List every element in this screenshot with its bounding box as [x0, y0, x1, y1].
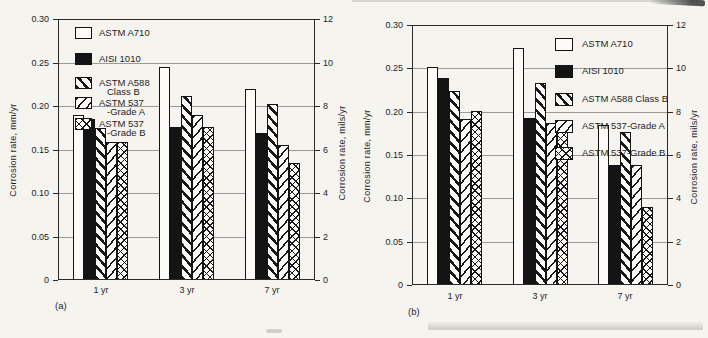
- legend-swatch-hatch-nw: [555, 93, 573, 106]
- y-axis-title-right-b: Corrosion rate, mils/yr: [689, 110, 699, 205]
- left-tick-label: 0.15: [371, 150, 403, 160]
- legend-swatch-hatch-ne: [555, 120, 573, 133]
- right-tick-mark: [668, 285, 673, 286]
- left-tick-mark: [407, 285, 412, 286]
- left-tick-label: 0.20: [371, 107, 403, 117]
- x-tick-label: 3 yr: [165, 285, 209, 295]
- right-tick-mark: [315, 106, 320, 107]
- right-tick-label: 4: [323, 188, 328, 198]
- right-tick-mark: [668, 112, 673, 113]
- legend-label: ASTM A710: [99, 28, 150, 38]
- left-tick-mark: [407, 25, 412, 26]
- panel-label-a: (a): [55, 300, 67, 311]
- legend-swatch-hatch-nw: [75, 77, 92, 89]
- left-tick-label: 0.20: [17, 101, 49, 111]
- left-tick-label: 0.30: [371, 20, 403, 30]
- x-tick-label: 1 yr: [433, 291, 477, 301]
- left-tick-label: 0.15: [17, 145, 49, 155]
- legend-swatch-open: [555, 38, 573, 51]
- left-tick-mark: [53, 150, 58, 151]
- right-tick-label: 12: [323, 14, 333, 24]
- legend-label: -Grade B: [107, 128, 146, 138]
- right-tick-label: 6: [323, 145, 328, 155]
- right-tick-mark: [668, 25, 673, 26]
- right-tick-mark: [315, 63, 320, 64]
- left-tick-label: 0.05: [17, 232, 49, 242]
- left-tick-label: 0: [371, 280, 403, 290]
- legend-label: ASTM 537-Grade A: [582, 121, 665, 131]
- plot-frame: [58, 19, 315, 280]
- right-tick-label: 12: [676, 20, 686, 30]
- legend-label: ASTM A588 Class B: [582, 94, 668, 104]
- left-tick-label: 0: [17, 275, 49, 285]
- right-tick-label: 6: [676, 150, 681, 160]
- x-tick-label: 7 yr: [250, 285, 294, 295]
- right-tick-mark: [668, 242, 673, 243]
- y-axis-title-right-a: Corrosion rate, mils/yr: [337, 106, 347, 201]
- left-tick-mark: [53, 280, 58, 281]
- left-tick-mark: [53, 193, 58, 194]
- left-tick-mark: [407, 155, 412, 156]
- right-tick-label: 10: [323, 58, 333, 68]
- legend-label: ASTM 537-Grade B: [582, 148, 665, 158]
- right-tick-label: 4: [676, 193, 681, 203]
- legend-swatch-open: [75, 27, 92, 39]
- left-tick-mark: [407, 68, 412, 69]
- right-tick-mark: [668, 198, 673, 199]
- legend-label: ASTM A710: [582, 39, 633, 49]
- x-tick-label: 3 yr: [518, 291, 562, 301]
- legend-label: AISI 1010: [99, 54, 141, 64]
- right-tick-label: 0: [323, 275, 328, 285]
- panel-label-b: (b): [408, 306, 420, 317]
- left-tick-mark: [53, 237, 58, 238]
- x-tick-label: 1 yr: [79, 285, 123, 295]
- legend-swatch-solid: [75, 53, 92, 65]
- right-tick-mark: [315, 150, 320, 151]
- right-tick-label: 8: [676, 107, 681, 117]
- left-tick-label: 0.25: [371, 63, 403, 73]
- right-tick-mark: [668, 155, 673, 156]
- legend-label: Class B: [107, 87, 140, 97]
- x-tick-label: 7 yr: [603, 291, 647, 301]
- left-tick-mark: [53, 63, 58, 64]
- right-tick-label: 0: [676, 280, 681, 290]
- right-tick-mark: [315, 237, 320, 238]
- right-tick-label: 8: [323, 101, 328, 111]
- right-tick-mark: [315, 19, 320, 20]
- right-tick-mark: [315, 193, 320, 194]
- legend-label: AISI 1010: [582, 66, 624, 76]
- legend-swatch-cross: [75, 118, 92, 130]
- left-tick-mark: [53, 106, 58, 107]
- right-tick-label: 10: [676, 63, 686, 73]
- legend-swatch-solid: [555, 65, 573, 78]
- left-tick-mark: [407, 242, 412, 243]
- chart-panel-a: Corrosion rate, mm/yr Corrosion rate, mi…: [0, 0, 354, 338]
- left-tick-mark: [407, 198, 412, 199]
- left-tick-label: 0.30: [17, 14, 49, 24]
- left-tick-label: 0.05: [371, 237, 403, 247]
- right-tick-mark: [315, 280, 320, 281]
- left-tick-label: 0.10: [371, 193, 403, 203]
- right-tick-label: 2: [323, 232, 328, 242]
- right-tick-mark: [668, 68, 673, 69]
- right-tick-label: 2: [676, 237, 681, 247]
- left-tick-mark: [53, 19, 58, 20]
- legend-label: -Grade A: [107, 107, 145, 117]
- left-tick-mark: [407, 112, 412, 113]
- chart-panel-b: Corrosion rate, mm/yr Corrosion rate, mi…: [354, 0, 708, 338]
- left-tick-label: 0.25: [17, 58, 49, 68]
- left-tick-label: 0.10: [17, 188, 49, 198]
- legend-swatch-cross: [555, 147, 573, 160]
- legend-swatch-hatch-ne: [75, 97, 92, 109]
